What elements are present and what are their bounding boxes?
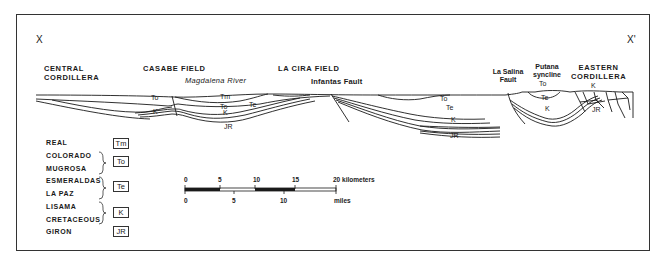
- unit-label-k: K: [591, 82, 596, 89]
- legend-name: COLORADO: [46, 152, 92, 159]
- unit-label-te: Te: [446, 104, 453, 111]
- unit-label-jr: JR: [450, 132, 459, 139]
- unit-label-k: K: [545, 105, 550, 112]
- km-tick-5: 5: [218, 176, 222, 183]
- legend-code-te: Te: [113, 181, 129, 192]
- river-label: Magdalena River: [185, 76, 246, 85]
- location-line: syncline: [527, 71, 567, 79]
- km-tick-10: 10: [253, 176, 260, 183]
- mile-unit: miles: [334, 197, 351, 204]
- legend-code-k: K: [113, 207, 129, 218]
- legend-name: CRETACEOUS: [46, 216, 100, 223]
- unit-label-te: Te: [541, 94, 548, 101]
- fault-label: Infantas Fault: [311, 77, 363, 86]
- legend-name: MUGROSA: [46, 165, 87, 172]
- km-tick-15: 15: [292, 176, 299, 183]
- section-start-label: X: [36, 34, 43, 45]
- location-eastern-cordillera: EASTERN CORDILLERA: [571, 63, 626, 81]
- unit-label-to: To: [539, 80, 546, 87]
- location-central-cordillera: CENTRAL CORDILLERA: [44, 64, 99, 82]
- km-tick-value: 20: [333, 176, 340, 183]
- scale-bar: [183, 184, 343, 196]
- legend-code-jr: JR: [113, 226, 129, 237]
- la-salina-fault: [508, 93, 525, 124]
- unit-label-k: K: [223, 109, 228, 116]
- legend-code-tm: Tm: [113, 138, 129, 149]
- location-line: CENTRAL: [44, 64, 99, 73]
- unit-label-jr: JR: [224, 123, 233, 130]
- unit-label-k: K: [153, 108, 158, 115]
- location-line: CORDILLERA: [44, 73, 99, 82]
- legend-name: ESMERALDAS: [46, 177, 101, 184]
- location-line: EASTERN: [571, 63, 626, 72]
- location-line: Putana: [527, 63, 567, 71]
- unit-label-k: K: [451, 116, 456, 123]
- location-line: CORDILLERA: [571, 72, 626, 81]
- unit-label-to: To: [151, 94, 158, 101]
- legend-code-to: To: [113, 156, 129, 167]
- mile-tick-5: 5: [232, 197, 236, 204]
- km-tick-0: 0: [184, 176, 188, 183]
- km-unit: kilometers: [342, 176, 375, 183]
- location-casabe-field: CASABE FIELD: [143, 64, 206, 73]
- unit-label-te: Te: [249, 101, 256, 108]
- legend-name: LA PAZ: [46, 190, 74, 197]
- legend-name: GIRON: [46, 228, 72, 235]
- section-end-label: X': [627, 34, 636, 45]
- legend-braces: [98, 150, 108, 230]
- unit-label-tm: Tm: [220, 93, 230, 100]
- legend-name: LISAMA: [46, 203, 76, 210]
- unit-label-to: To: [440, 95, 447, 102]
- location-la-salina-fault: La Salina Fault: [486, 68, 530, 84]
- location-line: Fault: [486, 76, 530, 84]
- mile-tick-0: 0: [184, 197, 188, 204]
- location-line: La Salina: [486, 68, 530, 76]
- location-putana-syncline: Putana syncline: [527, 63, 567, 79]
- unit-label-jr: JR: [592, 106, 601, 113]
- legend-name: REAL: [46, 139, 67, 146]
- location-la-cira-field: LA CIRA FIELD: [278, 64, 339, 73]
- km-tick-20: 20 kilometers: [333, 176, 375, 183]
- mile-tick-10: 10: [280, 197, 287, 204]
- casabe-fault: [172, 96, 177, 116]
